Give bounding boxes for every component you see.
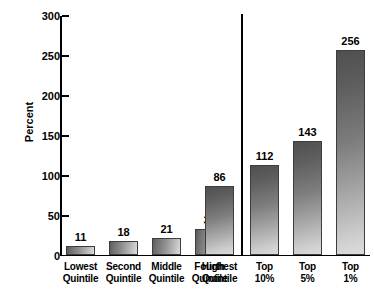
x-label-line1: Highest: [195, 261, 244, 273]
x-label-line1: Lowest: [56, 261, 105, 273]
bar-value-lowest-quintile: 11: [66, 232, 95, 243]
bar-value-highest-quintile: 86: [205, 172, 234, 183]
bar-second-quintile: [109, 241, 138, 255]
y-tick-mark-250: [62, 55, 69, 57]
y-tick-mark-300: [62, 15, 69, 17]
y-tick-50: 50: [0, 211, 60, 221]
x-label-top-5-percent: Top 5%: [283, 261, 332, 285]
x-label-line1: Second: [99, 261, 148, 273]
group-divider: [241, 14, 243, 256]
x-label-highest-quintile: Highest Quintile: [195, 261, 244, 285]
y-tick-250: 250: [0, 51, 60, 61]
bar-top-1-percent: [336, 50, 365, 255]
x-label-line1: Middle: [142, 261, 191, 273]
x-label-top-10-percent: Top 10%: [240, 261, 289, 285]
x-label-lowest-quintile: Lowest Quintile: [56, 261, 105, 285]
bar-value-top-10-percent: 112: [250, 151, 279, 162]
y-tick-mark-100: [62, 175, 69, 177]
x-label-line2: Quintile: [56, 273, 105, 285]
bar-value-second-quintile: 18: [109, 227, 138, 238]
y-tick-300: 300: [0, 11, 60, 21]
bar-value-top-5-percent: 143: [293, 127, 322, 138]
x-label-second-quintile: Second Quintile: [99, 261, 148, 285]
y-tick-200: 200: [0, 91, 60, 101]
x-label-line1: Top: [326, 261, 374, 273]
x-label-top-1-percent: Top 1%: [326, 261, 374, 285]
bar-middle-quintile: [152, 238, 181, 255]
y-tick-label-200: 200: [20, 91, 60, 101]
y-tick-mark-150: [62, 135, 69, 137]
bar-value-top-1-percent: 256: [336, 36, 365, 47]
x-label-line2: Quintile: [195, 273, 244, 285]
y-tick-label-250: 250: [20, 51, 60, 61]
y-tick-label-100: 100: [20, 171, 60, 181]
y-tick-label-0: 0: [20, 251, 60, 261]
x-label-line1: Top: [240, 261, 289, 273]
x-label-line2: 5%: [283, 273, 332, 285]
x-label-line2: Quintile: [99, 273, 148, 285]
x-label-line2: 10%: [240, 273, 289, 285]
y-tick-150: 150: [0, 131, 60, 141]
y-tick-mark-50: [62, 215, 69, 217]
bar-lowest-quintile: [66, 246, 95, 255]
x-label-middle-quintile: Middle Quintile: [142, 261, 191, 285]
y-tick-100: 100: [0, 171, 60, 181]
x-label-line1: Top: [283, 261, 332, 273]
y-tick-0: 0: [0, 251, 60, 261]
y-tick-label-300: 300: [20, 11, 60, 21]
bar-top-10-percent: [250, 165, 279, 255]
x-axis-line: [60, 255, 370, 256]
bar-top-5-percent: [293, 141, 322, 255]
x-label-line2: Quintile: [142, 273, 191, 285]
y-tick-label-50: 50: [20, 211, 60, 221]
x-label-line2: 1%: [326, 273, 374, 285]
bar-value-middle-quintile: 21: [152, 224, 181, 235]
y-tick-label-150: 150: [20, 131, 60, 141]
y-tick-mark-200: [62, 95, 69, 97]
bar-highest-quintile-main: [205, 186, 234, 255]
